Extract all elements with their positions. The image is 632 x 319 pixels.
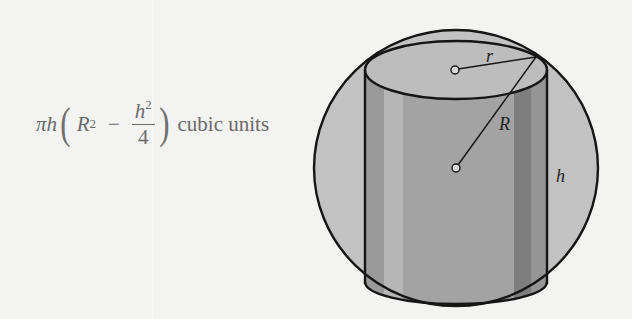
sphere-cylinder-diagram: r R h [0, 0, 632, 319]
label-R: R [498, 114, 510, 134]
top-center-point [451, 66, 459, 74]
label-h: h [556, 166, 565, 186]
label-r: r [486, 46, 494, 66]
sphere-center-point [452, 164, 460, 172]
